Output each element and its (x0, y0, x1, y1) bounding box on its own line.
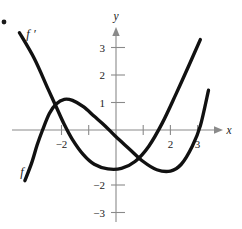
y-tick-label-2: 2 (100, 69, 106, 81)
y-axis-label: y (112, 10, 119, 23)
curve-f-prime (19, 33, 200, 170)
bullet-marker-icon (2, 20, 7, 25)
y-tick-label--2: −2 (93, 179, 105, 191)
curve-f (25, 90, 209, 180)
x-tick-label-2: 2 (168, 138, 174, 150)
coordinate-plane-svg: −2 2 3 3 2 1 −2 −3 x y f ′ f (0, 0, 242, 229)
x-axis-arrow-icon (214, 126, 223, 133)
y-tick-label-1: 1 (100, 97, 106, 109)
y-tick-label--3: −3 (93, 207, 105, 219)
y-tick-label-3: 3 (100, 42, 106, 54)
y-axis-arrow-icon (112, 27, 119, 36)
x-axis-label: x (225, 124, 232, 136)
curve-label-f: f (20, 165, 25, 179)
x-tick-label--2: −2 (56, 138, 68, 150)
curve-label-f-prime: f ′ (26, 27, 36, 41)
